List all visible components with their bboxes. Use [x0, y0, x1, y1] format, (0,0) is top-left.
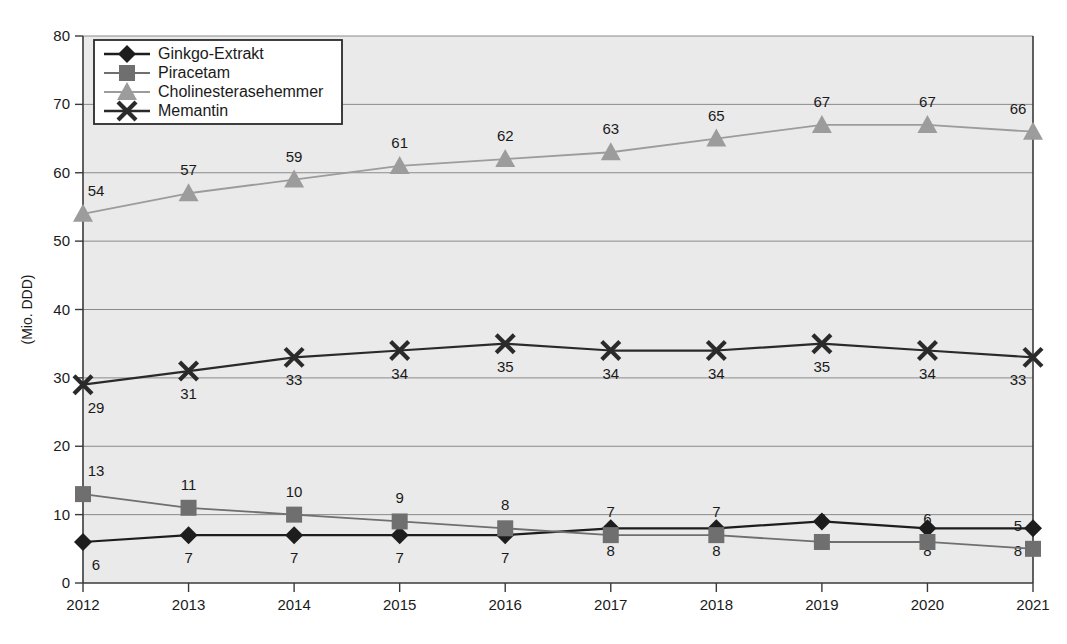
y-axis-tick-label: 10: [53, 506, 70, 523]
y-axis-title: (Mio. DDD): [19, 275, 35, 345]
data-point-marker: [392, 513, 408, 529]
data-point-marker: [1025, 541, 1041, 557]
legend-label: Memantin: [158, 102, 228, 119]
data-point-marker: [497, 520, 513, 536]
y-axis-tick-label: 80: [53, 27, 70, 44]
data-label: 59: [286, 148, 303, 165]
data-point-marker: [119, 65, 135, 81]
data-label: 35: [497, 358, 514, 375]
data-label: 34: [708, 365, 725, 382]
data-label: 34: [919, 365, 936, 382]
data-point-marker: [919, 534, 935, 550]
data-label: 10: [286, 483, 303, 500]
data-label: 57: [180, 161, 197, 178]
data-point-marker: [75, 486, 91, 502]
data-label: 54: [88, 182, 105, 199]
data-point-marker: [181, 500, 197, 516]
data-label: 67: [814, 93, 831, 110]
y-axis-tick-label: 60: [53, 164, 70, 181]
data-label: 66: [1010, 100, 1027, 117]
legend-item-ginkgo-extrakt[interactable]: Ginkgo-Extrakt: [104, 45, 264, 63]
x-axis-tick-label: 2017: [594, 596, 627, 613]
data-point-marker: [814, 534, 830, 550]
x-axis-tick-label: 2018: [700, 596, 733, 613]
data-point-marker: [603, 527, 619, 543]
data-point-marker: [708, 527, 724, 543]
data-label: 29: [88, 399, 105, 416]
line-chart: 01020304050607080(Mio. DDD)2012201320142…: [0, 0, 1067, 644]
data-label: 7: [501, 549, 509, 566]
data-label: 9: [395, 489, 403, 506]
y-axis-tick-label: 0: [62, 574, 70, 591]
data-label: 6: [92, 556, 100, 573]
x-axis-tick-label: 2014: [277, 596, 310, 613]
x-axis-tick-label: 2021: [1016, 596, 1049, 613]
data-label: 8: [501, 496, 509, 513]
legend-item-memantin[interactable]: Memantin: [104, 102, 228, 120]
data-label: 61: [391, 134, 408, 151]
data-label: 8: [712, 542, 720, 559]
y-axis-tick-label: 40: [53, 301, 70, 318]
data-label: 8: [607, 542, 615, 559]
chart-container: 01020304050607080(Mio. DDD)2012201320142…: [0, 0, 1067, 644]
y-axis-tick-label: 50: [53, 232, 70, 249]
x-axis-tick-label: 2019: [805, 596, 838, 613]
data-label: 34: [391, 365, 408, 382]
data-label: 8: [1014, 542, 1022, 559]
legend-label: Cholinesterasehemmer: [158, 83, 324, 100]
data-label: 7: [395, 549, 403, 566]
data-label: 34: [602, 365, 619, 382]
data-label: 7: [712, 503, 720, 520]
data-label: 65: [708, 107, 725, 124]
data-label: 13: [88, 462, 105, 479]
y-axis-tick-label: 70: [53, 95, 70, 112]
x-axis-tick-label: 2016: [489, 596, 522, 613]
data-label: 11: [181, 476, 197, 493]
data-label: 7: [607, 503, 615, 520]
legend-label: Ginkgo-Extrakt: [158, 45, 264, 62]
data-label: 67: [919, 93, 936, 110]
y-axis-tick-label: 30: [53, 369, 70, 386]
data-label: 7: [290, 549, 298, 566]
data-label: 6: [818, 510, 826, 527]
data-label: 33: [1010, 371, 1027, 388]
data-point-marker: [286, 507, 302, 523]
legend-label: Piracetam: [158, 64, 230, 81]
x-axis-tick-label: 2020: [911, 596, 944, 613]
y-axis-tick-label: 20: [53, 437, 70, 454]
data-label: 63: [602, 120, 619, 137]
x-axis-ticks: 2012201320142015201620172018201920202021: [66, 583, 1049, 613]
x-axis-tick-label: 2015: [383, 596, 416, 613]
data-label: 62: [497, 127, 514, 144]
data-label: 31: [180, 385, 197, 402]
data-label: 5: [1014, 517, 1022, 534]
legend: Ginkgo-ExtraktPiracetamCholinesterasehem…: [94, 40, 342, 124]
data-label: 7: [184, 549, 192, 566]
x-axis-tick-label: 2012: [66, 596, 99, 613]
data-label: 33: [286, 371, 303, 388]
legend-item-piracetam[interactable]: Piracetam: [104, 64, 230, 81]
data-label: 6: [923, 510, 931, 527]
data-label: 35: [814, 358, 831, 375]
x-axis-tick-label: 2013: [172, 596, 205, 613]
